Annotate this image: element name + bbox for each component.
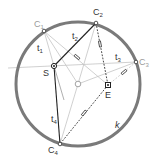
point-E-dot — [107, 84, 109, 86]
geometry-diagram: C1 C2 C3 C4 S E t1 t2 t3 t4 k — [0, 0, 156, 161]
arrow-icon-C4-E — [81, 110, 86, 116]
line-O-C4 — [60, 84, 78, 144]
label-t1: t1 — [37, 43, 44, 54]
label-t4: t4 — [51, 114, 58, 125]
point-C3 — [134, 60, 138, 64]
line-t4 — [54, 66, 60, 144]
label-C3: C3 — [139, 57, 150, 68]
point-C4 — [58, 142, 62, 146]
label-C2: C2 — [93, 7, 104, 18]
point-S-dot — [53, 65, 55, 67]
line-C2-E — [96, 23, 108, 85]
point-C2 — [94, 21, 98, 25]
label-C1: C1 — [34, 19, 45, 30]
label-k: k — [115, 120, 120, 130]
arrow-icon-C3-E — [121, 69, 127, 74]
label-C4: C4 — [48, 145, 59, 156]
label-t2: t2 — [72, 31, 79, 42]
label-E: E — [105, 90, 111, 100]
diagram-canvas: C1 C2 C3 C4 S E t1 t2 t3 t4 k — [0, 0, 156, 161]
point-O-center — [75, 81, 81, 87]
label-t3: t3 — [115, 52, 122, 63]
line-t1 — [44, 31, 54, 66]
arrow-icon-C2-E — [98, 41, 101, 47]
label-S: S — [43, 68, 49, 78]
